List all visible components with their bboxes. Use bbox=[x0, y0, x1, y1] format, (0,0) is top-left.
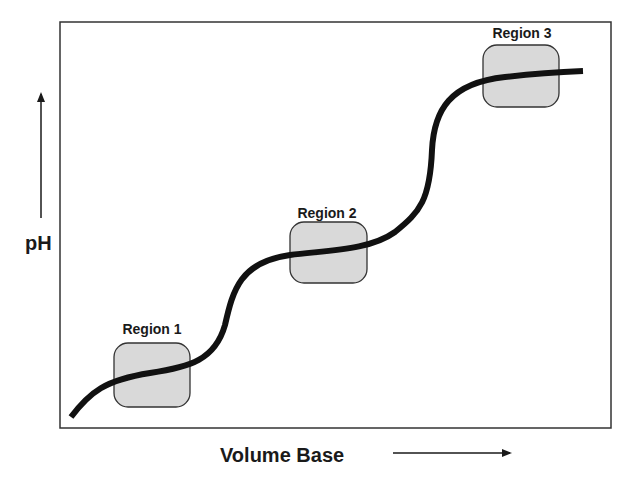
region-1-label: Region 1 bbox=[122, 321, 181, 337]
titration-diagram: Region 1 Region 2 Region 3 pH Volume Bas… bbox=[0, 0, 630, 490]
x-axis-label: Volume Base bbox=[220, 444, 344, 466]
region-3-label: Region 3 bbox=[492, 25, 551, 41]
y-axis-label: pH bbox=[25, 232, 52, 254]
region-2-label: Region 2 bbox=[297, 205, 356, 221]
